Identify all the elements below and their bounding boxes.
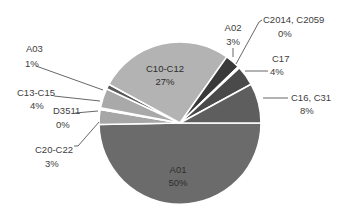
label-d3511-name: D3511 — [53, 105, 80, 116]
label-c13-name: C13-C15 — [17, 87, 55, 98]
label-c2014-pct: 0% — [278, 28, 292, 39]
pie-chart: A03 1% C13-C15 4% D3511 0% C20-C22 3% C1… — [0, 0, 344, 212]
label-a01-pct: 50% — [168, 177, 188, 188]
label-c17-name: C17 — [272, 53, 289, 64]
label-c2014-name: C2014, C2059 — [263, 14, 324, 25]
leader-c20 — [74, 122, 99, 146]
label-a02-name: A02 — [225, 22, 242, 33]
label-d3511-pct: 0% — [56, 119, 70, 130]
label-c16-name: C16, C31 — [291, 92, 331, 103]
label-a03-pct: 1% — [25, 58, 39, 69]
label-c17-pct: 4% — [270, 66, 284, 77]
leader-c13 — [54, 96, 100, 101]
label-a02-pct: 3% — [226, 36, 240, 47]
label-c20-name: C20-C22 — [35, 144, 73, 155]
label-c10-pct: 27% — [155, 76, 175, 87]
label-a03-name: A03 — [26, 43, 43, 54]
label-c10-name: C10-C12 — [146, 63, 184, 74]
label-c16-pct: 8% — [300, 105, 314, 116]
label-a01-name: A01 — [170, 164, 187, 175]
label-c13-pct: 4% — [30, 100, 44, 111]
label-c20-pct: 3% — [45, 158, 59, 169]
